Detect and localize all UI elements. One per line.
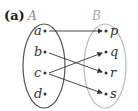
set-b-elements: p q r s (105, 23, 120, 101)
element-c: c (34, 65, 42, 80)
dot-s (105, 93, 108, 96)
set-a-elements: a b c d (34, 23, 47, 101)
mapping-diagram: a b c d p q r s (0, 0, 138, 111)
element-q: q (110, 44, 118, 59)
element-b: b (34, 44, 42, 59)
element-r: r (110, 65, 117, 80)
dot-r (105, 72, 108, 75)
dot-b (44, 51, 47, 54)
dot-d (44, 93, 47, 96)
set-b-oval (84, 24, 126, 108)
arrow-c-to-s (49, 74, 102, 93)
dot-a (44, 30, 47, 33)
dot-q (105, 51, 108, 54)
dot-c (44, 72, 47, 75)
element-a: a (34, 23, 42, 38)
element-p: p (110, 23, 119, 38)
element-d: d (34, 86, 42, 101)
mapping-arrows (49, 31, 102, 93)
set-a-oval (23, 24, 65, 108)
dot-p (105, 30, 108, 33)
element-s: s (110, 86, 117, 101)
